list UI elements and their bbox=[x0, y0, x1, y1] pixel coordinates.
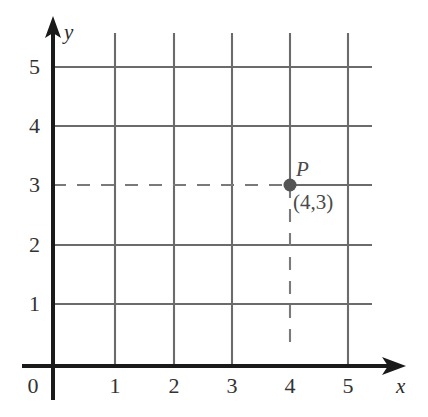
x-tick-label-1: 1 bbox=[104, 375, 126, 397]
point-p-label: P bbox=[296, 159, 309, 180]
y-tick-label-5: 5 bbox=[14, 56, 40, 78]
horizontal-gridlines bbox=[53, 67, 372, 304]
y-tick-label-3: 3 bbox=[14, 174, 40, 196]
y-tick-label-2: 2 bbox=[14, 234, 40, 256]
x-tick-label-2: 2 bbox=[163, 375, 185, 397]
x-axis-label: x bbox=[396, 376, 405, 397]
y-tick-label-4: 4 bbox=[14, 115, 40, 137]
coordinate-plane-figure: 5 4 3 2 1 0 1 2 3 4 5 y x P (4,3) bbox=[0, 0, 428, 417]
y-axis-label: y bbox=[64, 22, 73, 43]
guide-lines bbox=[53, 185, 290, 352]
x-tick-label-5: 5 bbox=[337, 375, 359, 397]
y-tick-label-1: 1 bbox=[14, 293, 40, 315]
x-tick-label-3: 3 bbox=[221, 375, 243, 397]
x-tick-label-4: 4 bbox=[279, 375, 301, 397]
point-p-coordinates-label: (4,3) bbox=[293, 192, 333, 213]
x-tick-label-0: 0 bbox=[22, 375, 44, 397]
plot-canvas bbox=[0, 0, 428, 417]
